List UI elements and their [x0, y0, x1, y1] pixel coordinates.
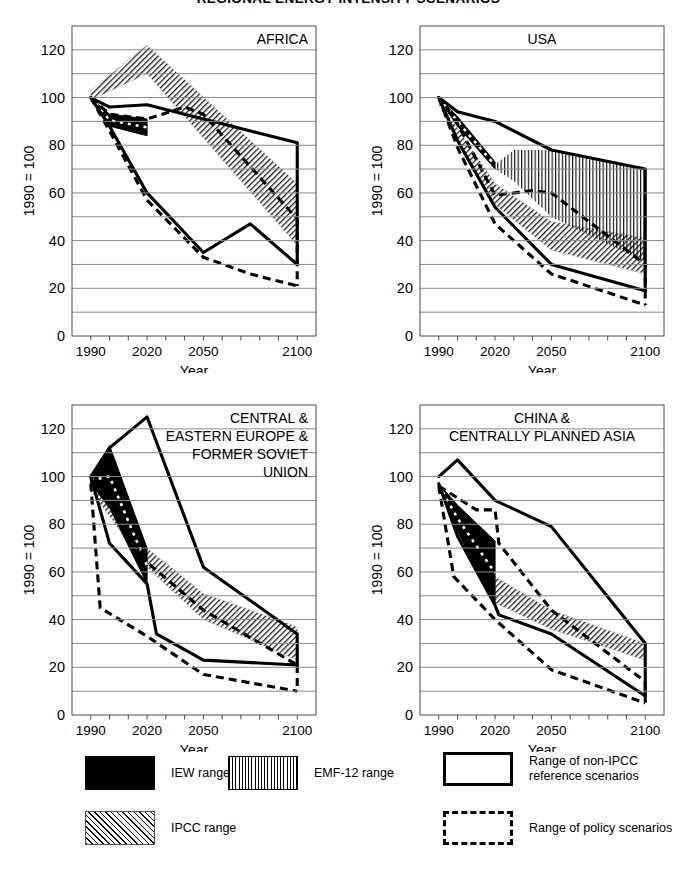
- y-tick-label: 80: [49, 516, 65, 532]
- legend-item-reference: Range of non-IPCC reference scenarios: [443, 752, 639, 786]
- panel-title: CENTRAL &: [230, 410, 309, 426]
- legend-item-iew: IEW range: [85, 756, 230, 790]
- reference-range-swatch: [443, 752, 513, 786]
- legend-label-iew: IEW range: [171, 766, 230, 781]
- y-tick-label: 40: [49, 612, 65, 628]
- y-tick-label: 40: [397, 233, 413, 249]
- x-tick-label: 1990: [76, 723, 106, 738]
- legend-item-emf: EMF-12 range: [228, 756, 394, 790]
- x-tick-label: 2050: [188, 723, 218, 738]
- x-tick-label: 2050: [188, 344, 218, 359]
- chart-usa: 1990202020502100020406080100120Year1990 …: [368, 18, 678, 373]
- policy-range-swatch: [443, 811, 513, 845]
- panel-title: AFRICA: [257, 31, 309, 47]
- y-tick-label: 120: [389, 421, 413, 437]
- y-axis-label: 1990 = 100: [21, 525, 37, 596]
- panel-title: CENTRALLY PLANNED ASIA: [449, 428, 636, 444]
- y-tick-label: 0: [57, 707, 65, 723]
- y-tick-label: 20: [397, 659, 413, 675]
- chart-china-centrally-planned-asia: 1990202020502100020406080100120Year1990 …: [368, 397, 678, 752]
- panel-title: UNION: [263, 464, 308, 480]
- reference-range-lower: [439, 484, 645, 696]
- x-tick-label: 1990: [76, 344, 106, 359]
- legend-label-ipcc: IPCC range: [171, 821, 236, 836]
- ipcc-swatch: [85, 811, 155, 845]
- legend-label-policy: Range of policy scenarios: [529, 821, 672, 836]
- y-tick-label: 120: [41, 421, 65, 437]
- y-tick-label: 60: [49, 185, 65, 201]
- legend-label-emf: EMF-12 range: [314, 766, 394, 781]
- y-tick-label: 20: [49, 659, 65, 675]
- y-tick-label: 40: [49, 233, 65, 249]
- x-axis-label: Year: [180, 363, 209, 373]
- y-tick-label: 60: [397, 185, 413, 201]
- x-tick-label: 2020: [480, 723, 510, 738]
- y-tick-label: 60: [397, 564, 413, 580]
- y-tick-label: 60: [49, 564, 65, 580]
- panel-title: EASTERN EUROPE &: [166, 428, 309, 444]
- x-tick-label: 2100: [282, 723, 312, 738]
- y-axis-label: 1990 = 100: [21, 146, 37, 217]
- x-tick-label: 2100: [282, 344, 312, 359]
- y-tick-label: 20: [397, 280, 413, 296]
- y-tick-label: 100: [389, 90, 413, 106]
- y-tick-label: 80: [397, 516, 413, 532]
- x-tick-label: 2050: [536, 723, 566, 738]
- y-axis-label: 1990 = 100: [369, 525, 385, 596]
- iew-swatch: [85, 756, 155, 790]
- legend-label-reference: Range of non-IPCC reference scenarios: [529, 754, 639, 784]
- panel-title: USA: [528, 31, 557, 47]
- x-tick-label: 2100: [630, 344, 660, 359]
- panel-central-eastern-europe-fsu: 1990202020502100020406080100120Year1990 …: [20, 397, 330, 752]
- y-tick-label: 40: [397, 612, 413, 628]
- legend: IEW range EMF-12 range IPCC range Range …: [0, 748, 697, 880]
- policy-range-upper: [439, 486, 645, 682]
- y-tick-label: 0: [405, 328, 413, 344]
- x-tick-label: 2050: [536, 344, 566, 359]
- x-tick-label: 2020: [132, 723, 162, 738]
- y-tick-label: 100: [41, 469, 65, 485]
- x-tick-label: 2100: [630, 723, 660, 738]
- y-tick-label: 100: [389, 469, 413, 485]
- figure-title: REGIONAL ENERGY INTENSITY SCENARIOS: [0, 0, 697, 6]
- x-tick-label: 2020: [480, 344, 510, 359]
- panel-title: FORMER SOVIET: [192, 446, 308, 462]
- emf-swatch: [228, 756, 298, 790]
- legend-item-policy: Range of policy scenarios: [443, 811, 672, 845]
- chart-africa: 1990202020502100020406080100120Year1990 …: [20, 18, 330, 373]
- panel-china-centrally-planned-asia: 1990202020502100020406080100120Year1990 …: [368, 397, 678, 752]
- y-tick-label: 80: [397, 137, 413, 153]
- x-tick-label: 1990: [424, 344, 454, 359]
- y-axis-label: 1990 = 100: [369, 146, 385, 217]
- panel-title: CHINA &: [514, 410, 571, 426]
- y-tick-label: 0: [405, 707, 413, 723]
- y-tick-label: 120: [41, 42, 65, 58]
- chart-central-eastern-europe-fsu: 1990202020502100020406080100120Year1990 …: [20, 397, 330, 752]
- y-tick-label: 20: [49, 280, 65, 296]
- x-tick-label: 2020: [132, 344, 162, 359]
- y-tick-label: 100: [41, 90, 65, 106]
- x-axis-label: Year: [528, 363, 557, 373]
- panel-usa: 1990202020502100020406080100120Year1990 …: [368, 18, 678, 373]
- y-tick-label: 80: [49, 137, 65, 153]
- y-tick-label: 120: [389, 42, 413, 58]
- panel-africa: 1990202020502100020406080100120Year1990 …: [20, 18, 330, 373]
- x-tick-label: 1990: [424, 723, 454, 738]
- legend-item-ipcc: IPCC range: [85, 811, 236, 845]
- y-tick-label: 0: [57, 328, 65, 344]
